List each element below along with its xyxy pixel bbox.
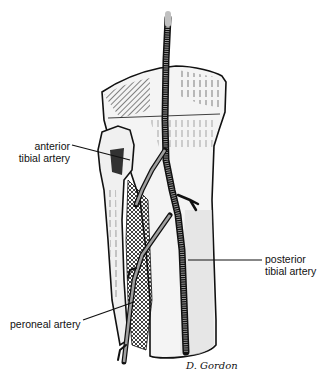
label-line: tibial artery [10,152,70,164]
label-line: tibial artery [265,265,316,277]
label-line: peroneal artery [10,318,81,330]
artist-signature: D. Gordon [186,360,238,371]
label-line: anterior [10,140,70,152]
anterior-tibial-artery-label: anterior tibial artery [10,140,70,164]
posterior-tibial-artery-label: posterior tibial artery [265,253,316,277]
label-line: posterior [265,253,316,265]
peroneal-artery-label: peroneal artery [10,318,81,330]
